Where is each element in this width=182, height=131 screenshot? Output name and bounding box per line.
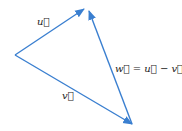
label-u: u⃗	[37, 16, 49, 27]
label-w-equation: w⃗ = u⃗ − v⃗	[115, 63, 182, 74]
vector-u-arrow	[15, 9, 84, 55]
label-v: v⃗	[62, 90, 74, 101]
vector-diagram: u⃗ v⃗ w⃗ = u⃗ − v⃗	[0, 0, 182, 131]
